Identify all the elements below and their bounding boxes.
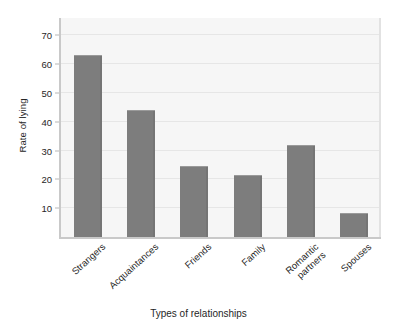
bar-romantic-partners[interactable] [287,145,315,237]
x-axis-tick-labels: StrangersAcquaintancesFriendsFamilyRoman… [59,241,381,303]
x-tick-label-acquaintances: Acquaintances [107,241,161,291]
y-tick-label-30: 30 [41,145,52,156]
x-tick-label-family: Family [239,241,267,268]
y-tick-label-70: 70 [41,30,52,41]
y-tick-label-50: 50 [41,87,52,98]
y-tick-label-60: 60 [41,59,52,70]
bar-chart-figure: Rate of lying 10203040506070 StrangersAc… [0,0,397,331]
y-tick-label-20: 20 [41,174,52,185]
bar-spouses[interactable] [340,213,368,237]
x-tick-label-spouses: Spouses [339,241,374,274]
bar-acquaintances[interactable] [127,110,155,237]
x-tick-label-friends: Friends [183,241,214,270]
x-tick-label-romantic-partners: Romanticpartners [283,241,328,284]
y-tick-label-10: 10 [41,203,52,214]
x-axis-title: Types of relationships [0,308,397,319]
y-tick-label-40: 40 [41,116,52,127]
x-tick-label-strangers: Strangers [69,241,107,277]
y-axis-tick-labels: 10203040506070 [0,0,60,250]
plot-area [59,18,381,239]
bar-strangers[interactable] [74,55,102,237]
bar-family[interactable] [234,175,262,237]
bar-friends[interactable] [180,166,208,237]
bar-series [61,18,381,237]
